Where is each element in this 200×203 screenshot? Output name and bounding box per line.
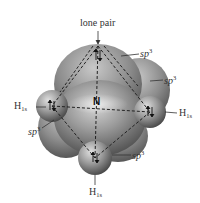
sp3-label-right: sp3 — [164, 75, 176, 86]
sp3-label-bottom: sp3 — [132, 150, 144, 161]
h1s-label-left: H1s — [14, 101, 27, 113]
nitrogen-label: N — [93, 96, 100, 107]
h1s-label-right: H1s — [179, 108, 192, 120]
sp3-label-left: sp3 — [28, 126, 40, 137]
sp3-label-top: sp3 — [140, 48, 152, 59]
lone-pair-label: lone pair — [80, 18, 115, 28]
h1s-label-bottom: H1s — [89, 187, 102, 199]
